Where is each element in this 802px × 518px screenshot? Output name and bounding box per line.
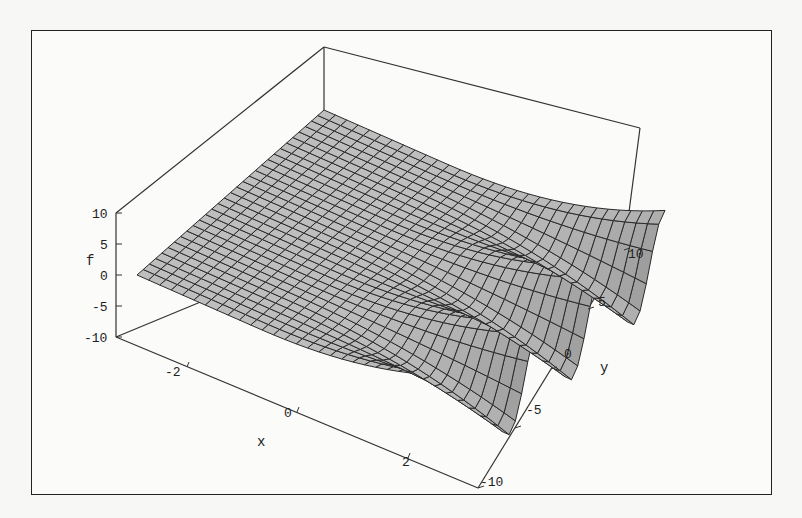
z-axis-label: f: [86, 253, 94, 269]
surface-plot: 10 5 0 -5 -10 f -2 0 2 x 10 5 0 -5 -10 y: [0, 0, 802, 518]
y-tick-10: 10: [628, 247, 644, 262]
y-axis-label: y: [600, 360, 608, 376]
x-tick-0: 0: [284, 406, 292, 421]
y-tick-0: 0: [564, 347, 572, 362]
z-tick-5: 5: [100, 238, 108, 253]
x-axis-ticks: [187, 362, 410, 458]
z-tick-0: 0: [100, 269, 108, 284]
x-tick-2: 2: [402, 455, 410, 470]
x-axis-label: x: [257, 434, 265, 450]
x-tick-neg2: -2: [165, 365, 181, 380]
z-tick-neg10: -10: [84, 331, 107, 346]
y-tick-5: 5: [598, 295, 606, 310]
y-tick-neg5: -5: [526, 403, 542, 418]
surface-mesh: [137, 110, 665, 435]
y-tick-neg10: -10: [480, 475, 503, 490]
z-tick-10: 10: [92, 207, 108, 222]
z-axis-ticks: [116, 213, 122, 337]
z-tick-neg5: -5: [92, 300, 108, 315]
